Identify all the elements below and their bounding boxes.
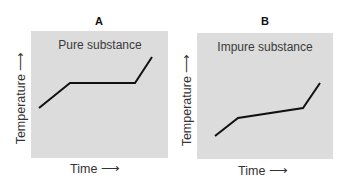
x-axis-label-a: Time ⟶ bbox=[70, 161, 120, 176]
panel-letter-b: B bbox=[261, 15, 269, 27]
panel-letter-a: A bbox=[95, 15, 103, 27]
plot-title-b: Impure substance bbox=[217, 40, 312, 54]
x-axis-label-b: Time ⟶ bbox=[238, 163, 288, 178]
y-axis-label-a: Temperature ⟶ bbox=[13, 52, 28, 145]
plot-title-a: Pure substance bbox=[58, 38, 141, 52]
y-axis-label-b: Temperature ⟶ bbox=[179, 54, 194, 147]
